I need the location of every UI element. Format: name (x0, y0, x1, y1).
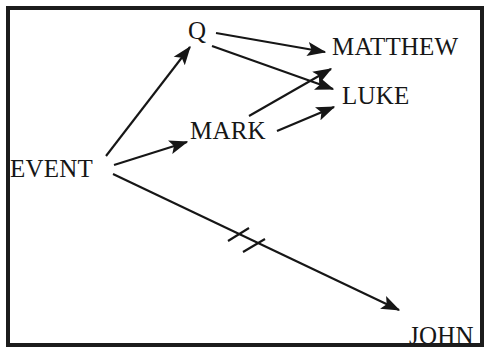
node-label-luke: LUKE (342, 83, 409, 108)
edge-event-to-john (113, 174, 399, 310)
edge-q-to-matthew (216, 33, 325, 52)
node-label-john: JOHN (409, 323, 474, 348)
edge-event-to-q (106, 47, 190, 156)
node-label-q: Q (188, 18, 206, 43)
edge-mark-to-matthew (249, 69, 331, 116)
edge-event-to-mark (114, 142, 187, 165)
edge-q-to-luke (212, 46, 333, 89)
diagram-canvas: EVENT Q MARK MATTHEW LUKE JOHN (0, 0, 496, 359)
edge-mark-to-luke (277, 107, 334, 131)
node-label-matthew: MATTHEW (332, 34, 458, 59)
node-label-mark: MARK (190, 118, 266, 143)
node-label-event: EVENT (10, 156, 93, 181)
